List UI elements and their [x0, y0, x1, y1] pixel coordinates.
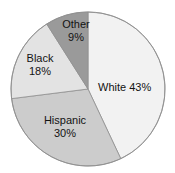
- pie-chart: White 43% Hispanic 30% Black 18% Other 9…: [0, 0, 175, 173]
- pie-label-hispanic: Hispanic 30%: [34, 114, 96, 139]
- pie-label-hispanic-percent: 30%: [34, 127, 96, 140]
- pie-label-black: Black 18%: [16, 52, 64, 77]
- pie-label-other-text: Other: [62, 18, 90, 30]
- pie-label-black-percent: 18%: [16, 65, 64, 78]
- pie-label-black-text: Black: [27, 52, 54, 64]
- pie-label-other-percent: 9%: [52, 31, 100, 44]
- pie-label-white: White 43%: [98, 81, 151, 94]
- pie-label-white-text: White 43%: [98, 81, 151, 93]
- pie-label-hispanic-text: Hispanic: [44, 114, 86, 126]
- pie-label-other: Other 9%: [52, 18, 100, 43]
